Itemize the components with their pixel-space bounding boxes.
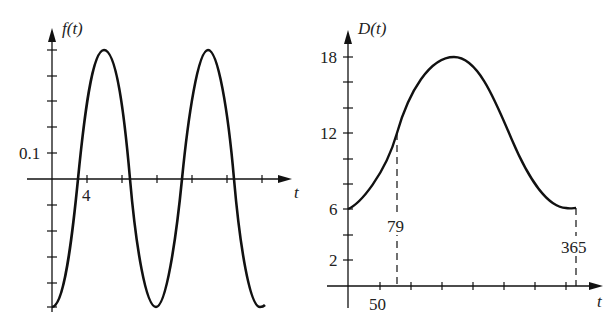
right-y-arrow-icon <box>344 30 352 44</box>
left-y-label: f(t) <box>62 19 83 38</box>
left-chart: f(t) t 4 0.1 <box>19 19 300 312</box>
right-chart: D(t) t 18 12 6 2 50 79 365 <box>320 19 603 314</box>
figure: f(t) t 4 0.1 <box>0 0 609 321</box>
right-y-tick-label-12: 12 <box>320 124 337 143</box>
right-y-tick-label-2: 2 <box>329 251 338 270</box>
right-curve <box>348 57 576 209</box>
left-x-label: t <box>294 183 300 202</box>
annotation-365: 365 <box>561 238 587 257</box>
right-y-tick-label-6: 6 <box>329 200 338 219</box>
annotation-79: 79 <box>387 217 404 236</box>
right-x-arrow-icon <box>589 282 603 290</box>
left-x-arrow-icon <box>278 175 292 183</box>
right-y-label: D(t) <box>357 19 387 38</box>
right-y-tick-label-18: 18 <box>320 48 337 67</box>
left-y-tick-label-0.1: 0.1 <box>19 144 40 163</box>
left-y-arrow-icon <box>48 28 56 42</box>
right-x-tick-label-50: 50 <box>369 295 386 314</box>
left-x-tick-label-4: 4 <box>82 186 91 205</box>
right-x-label: t <box>597 292 603 311</box>
